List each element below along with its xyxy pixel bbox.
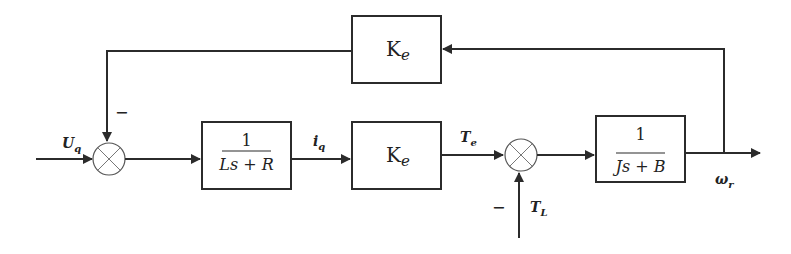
mechanical-transfer-block: 1 Js + B bbox=[596, 116, 685, 182]
input-label: Uq bbox=[62, 135, 81, 154]
electrical-transfer-block: 1 Ls + R bbox=[202, 122, 291, 189]
feedback-minus-sign: − bbox=[115, 103, 128, 122]
load-torque-minus-sign: − bbox=[492, 198, 505, 217]
electrical-numerator: 1 bbox=[241, 131, 251, 150]
summing-junction-voltage bbox=[93, 143, 125, 175]
electrical-denominator: Ls + R bbox=[218, 155, 273, 174]
output-label: ωr bbox=[715, 171, 734, 190]
summing-junction-torque bbox=[505, 139, 537, 171]
mechanical-denominator: Js + B bbox=[613, 157, 666, 176]
torque-gain-block: Ke bbox=[352, 122, 441, 189]
current-label: iq bbox=[313, 133, 325, 152]
feedback-gain-block: Ke bbox=[352, 16, 441, 83]
block-diagram: Uq − 1 Ls + R iq Ke Te − TL 1 Js bbox=[0, 0, 791, 254]
load-torque-label: TL bbox=[530, 199, 547, 218]
mechanical-numerator: 1 bbox=[635, 125, 645, 144]
electromagnetic-torque-label: Te bbox=[460, 129, 477, 148]
